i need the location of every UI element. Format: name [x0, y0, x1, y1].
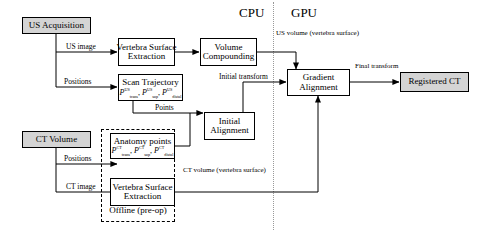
edge-label-final-transform: Final transform — [355, 63, 397, 70]
sup-ct: CT — [159, 145, 164, 150]
node-scan-trajectory[interactable]: Scan Trajectory PUStrans, PUSsup, PUSdis… — [118, 74, 183, 101]
sub-distal: distal — [172, 93, 181, 98]
node-label-line2: Compounding — [203, 52, 255, 61]
node-registered-ct[interactable]: Registered CT — [400, 72, 469, 92]
final-transform-line2: transform — [371, 62, 398, 70]
node-vertebra-surface-extraction-us[interactable]: Vertebra Surface Extraction — [118, 38, 175, 66]
node-label: US Acquisition — [29, 21, 84, 30]
wire-us-volume — [257, 52, 296, 69]
sup-ct: CT — [139, 145, 144, 150]
flow-diagram: CPU GPU Offline (pre-op) — [0, 0, 484, 234]
node-label-line2: Alignment — [210, 126, 249, 135]
node-us-acquisition[interactable]: US Acquisition — [22, 17, 91, 34]
sup-ct: CT — [116, 145, 121, 150]
wire-ct-volume-out — [175, 96, 318, 192]
edge-label-us-image: US image — [66, 43, 96, 51]
node-formula-anatomy-points: PCTtrans, PCTsup, PCTdistal — [112, 147, 174, 155]
sub-distal: distal — [164, 152, 173, 157]
node-label: Registered CT — [408, 77, 460, 86]
wire-points-ct — [175, 113, 190, 146]
sub-trans: trans — [122, 152, 130, 157]
sub-trans: trans — [130, 93, 138, 98]
ct-volume-out-line2: (vertebra surface) — [216, 166, 266, 174]
edge-label-positions-ct: Positions — [64, 155, 92, 163]
node-label-line2: Alignment — [299, 83, 338, 92]
sup-us: US — [124, 87, 129, 92]
edge-label-ct-volume-out: CT volume (vertebra surface) — [183, 167, 255, 174]
edge-label-positions-us: Positions — [64, 78, 92, 86]
us-volume-line2: (vertebra surface) — [309, 29, 359, 37]
node-volume-compounding[interactable]: Volume Compounding — [200, 38, 257, 66]
ct-volume-out-line1: CT volume — [183, 166, 215, 174]
node-label: CT Volume — [36, 135, 77, 144]
final-transform-line1: Final — [355, 62, 369, 70]
node-label-line2: Extraction — [124, 192, 162, 201]
node-label-line2: Extraction — [128, 52, 166, 61]
node-formula-scan-trajectory: PUStrans, PUSsup, PUSdistal — [120, 89, 182, 97]
sup-us: US — [147, 87, 152, 92]
us-volume-line1: US volume — [276, 29, 308, 37]
edge-label-us-volume: US volume (vertebra surface) — [276, 30, 338, 37]
node-initial-alignment[interactable]: Initial Alignment — [204, 112, 255, 140]
node-ct-volume[interactable]: CT Volume — [22, 131, 91, 148]
sup-us: US — [167, 87, 172, 92]
edge-label-points: Points — [155, 104, 174, 112]
node-vertebra-surface-extraction-ct[interactable]: Vertebra Surface Extraction — [110, 178, 175, 206]
edge-label-initial-transform: Initial transform — [219, 73, 268, 81]
edge-label-ct-image: CT image — [66, 183, 96, 191]
node-gradient-alignment[interactable]: Gradient Alignment — [287, 69, 350, 96]
node-anatomy-points[interactable]: Anatomy points PCTtrans, PCTsup, PCTdist… — [110, 133, 175, 159]
